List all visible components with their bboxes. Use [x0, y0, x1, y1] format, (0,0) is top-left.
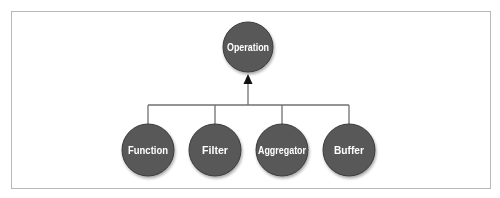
node-function-label: Function	[128, 144, 168, 156]
node-aggregator-label: Aggregator	[258, 144, 307, 156]
node-filter[interactable]: Filter	[189, 124, 241, 176]
node-buffer[interactable]: Buffer	[323, 124, 375, 176]
arrowhead-icon	[244, 74, 253, 84]
node-aggregator[interactable]: Aggregator	[256, 124, 308, 176]
node-buffer-label: Buffer	[334, 144, 365, 156]
node-filter-label: Filter	[202, 144, 229, 156]
node-function[interactable]: Function	[122, 124, 174, 176]
inheritance-diagram: Operation Function Filter Aggregator Buf…	[0, 0, 500, 198]
node-operation-label: Operation	[227, 41, 269, 53]
node-operation[interactable]: Operation	[223, 22, 273, 72]
connector-lines	[148, 82, 349, 124]
